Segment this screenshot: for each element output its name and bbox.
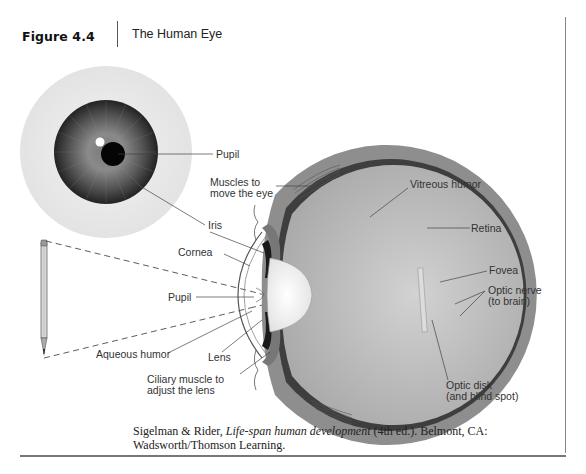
figure-caption: Sigelman & Rider, Life-span human develo…: [133, 424, 553, 452]
eye-highlight: [96, 138, 105, 147]
caption-publisher: Wadsworth/Thomson Learning.: [133, 438, 285, 452]
label-aqueous-humor: Aqueous humor: [96, 348, 171, 360]
caption-authors: Sigelman & Rider,: [133, 424, 226, 438]
label-vitreous-humor: Vitreous humor: [410, 178, 482, 190]
label-side-pupil: Pupil: [168, 291, 191, 303]
label-lens: Lens: [208, 351, 231, 363]
caption-book-title: Life-span human development: [226, 424, 371, 438]
label-cornea: Cornea: [178, 246, 213, 258]
label-muscles-line2: move the eye: [210, 187, 273, 199]
caption-edition: (4th ed.). Belmont, CA:: [370, 424, 487, 438]
label-optic-disk-line2: (and blind spot): [446, 390, 518, 402]
label-front-pupil: Pupil: [216, 148, 239, 160]
eye-diagram: Pupil Iris Muscles to move the eye Vitre…: [0, 0, 586, 474]
label-optic-nerve-line2: (to brain): [488, 295, 530, 307]
label-retina: Retina: [471, 222, 502, 234]
label-ciliary-line2: adjust the lens: [147, 384, 215, 396]
label-fovea: Fovea: [489, 264, 518, 276]
label-iris: Iris: [208, 219, 222, 231]
front-eye: [20, 66, 192, 238]
pencil: [41, 240, 47, 356]
